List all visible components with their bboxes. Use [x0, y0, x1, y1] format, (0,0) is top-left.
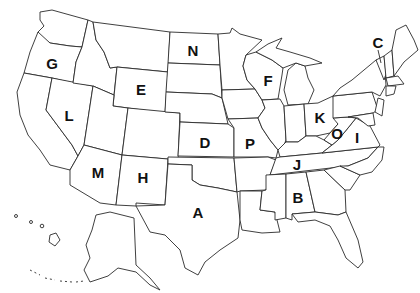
state-michigan[interactable]: [284, 63, 314, 105]
label-n: N: [188, 43, 199, 58]
state-florida[interactable]: [292, 212, 363, 268]
state-indiana[interactable]: [284, 104, 306, 142]
label-l: L: [64, 108, 73, 123]
label-b: B: [293, 190, 304, 205]
hawaii-island-small-3: [40, 224, 44, 228]
label-d: D: [200, 135, 211, 150]
hawaii-island-small-2: [15, 215, 18, 218]
label-o: O: [331, 126, 343, 141]
label-c: C: [373, 35, 384, 50]
state-new-jersey[interactable]: [375, 98, 384, 116]
label-p: P: [245, 136, 255, 151]
label-g: G: [46, 56, 58, 71]
label-k: K: [315, 110, 326, 125]
state-massachusetts[interactable]: [386, 76, 404, 86]
state-maine[interactable]: [392, 25, 418, 76]
label-j: J: [293, 157, 301, 172]
label-h: H: [138, 170, 149, 185]
hawaii-island-small-1: [30, 221, 33, 224]
aleutian-islands: [30, 270, 84, 282]
state-hawaii[interactable]: [49, 233, 60, 246]
label-e: E: [136, 82, 146, 97]
state-connecticut[interactable]: [386, 86, 396, 96]
label-a: A: [193, 205, 204, 220]
label-i: I: [355, 130, 359, 145]
label-f: F: [263, 73, 272, 88]
state-colorado[interactable]: [122, 108, 180, 160]
label-m: M: [92, 165, 105, 180]
